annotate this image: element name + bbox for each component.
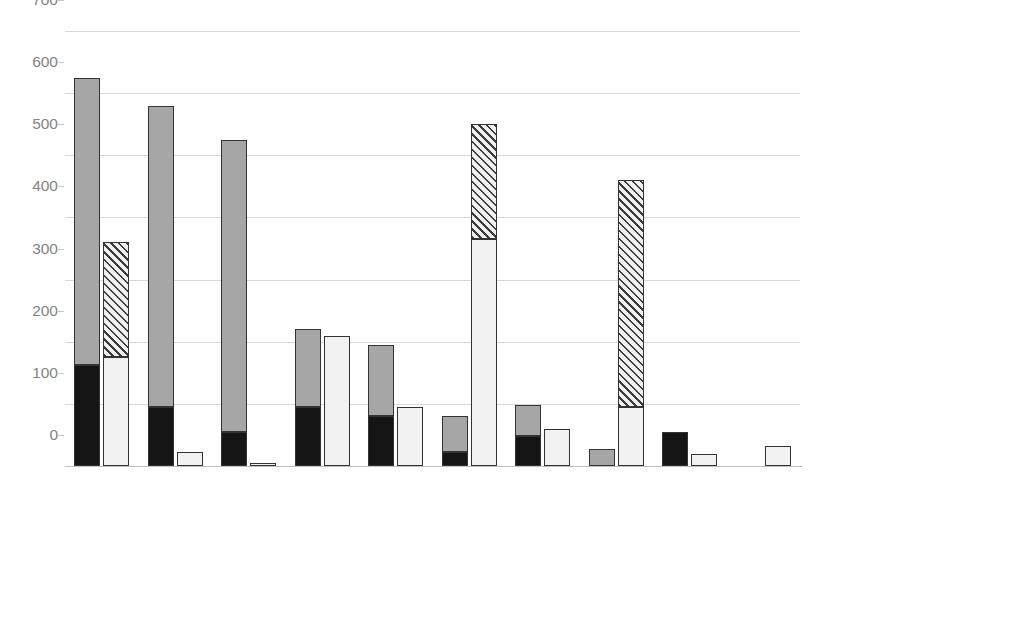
bar-segment [397, 407, 423, 466]
plot-area [65, 31, 800, 466]
y-axis-tick-label: 300 [12, 241, 58, 257]
stacked-grouped-bar-chart: 7006005004003002001000 [0, 0, 1025, 639]
bar-oppose [662, 432, 688, 466]
bar-segment [442, 416, 468, 453]
y-axis-tick-mark [58, 435, 64, 436]
y-axis-tick-label: 200 [12, 303, 58, 319]
y-axis-tick-mark [58, 62, 64, 63]
bar-group [295, 31, 369, 466]
bar-group [662, 31, 736, 466]
bar-support [691, 454, 717, 466]
bar-segment [471, 239, 497, 466]
bar-group [368, 31, 442, 466]
bar-segment [544, 429, 570, 466]
bar-segment [765, 446, 791, 467]
bar-support [177, 452, 203, 466]
bar-support [103, 242, 129, 466]
bar-segment [221, 140, 247, 432]
bar-oppose [148, 106, 174, 466]
bar-segment [618, 407, 644, 466]
bar-segment [324, 336, 350, 466]
x-axis-labels [0, 466, 1025, 639]
bar-segment [662, 432, 688, 466]
bar-support [471, 124, 497, 466]
bar-group [736, 31, 810, 466]
bar-segment [74, 78, 100, 365]
y-axis: 7006005004003002001000 [0, 0, 58, 436]
y-axis-tick-label: 500 [12, 116, 58, 132]
bar-oppose [368, 345, 394, 466]
bar-segment [368, 416, 394, 466]
bar-segment [691, 454, 717, 466]
y-axis-tick-mark [58, 186, 64, 187]
bar-segment [177, 452, 203, 466]
bar-group [221, 31, 295, 466]
bar-oppose [515, 405, 541, 466]
bar-oppose [74, 78, 100, 466]
bar-support [397, 407, 423, 466]
bar-segment [589, 449, 615, 466]
bar-group [589, 31, 663, 466]
bar-segment [295, 407, 321, 466]
y-axis-tick-mark [58, 0, 64, 1]
y-axis-tick-label: 600 [12, 54, 58, 70]
bar-segment [515, 405, 541, 435]
bar-oppose [295, 329, 321, 466]
bar-segment [442, 452, 468, 466]
bar-oppose [221, 140, 247, 466]
y-axis-tick-label: 400 [12, 178, 58, 194]
bar-oppose [442, 416, 468, 466]
bar-segment [103, 357, 129, 466]
bar-support [618, 180, 644, 466]
bar-segment [471, 124, 497, 239]
bar-support [765, 446, 791, 467]
bar-segment [295, 329, 321, 407]
bar-segment [103, 242, 129, 357]
bar-segment [148, 106, 174, 407]
bar-support [544, 429, 570, 466]
y-axis-tick-label: 0 [12, 427, 58, 443]
bar-support [324, 336, 350, 466]
bar-oppose [589, 449, 615, 466]
y-axis-tick-mark [58, 311, 64, 312]
bar-group [442, 31, 516, 466]
bar-segment [148, 407, 174, 466]
bar-group [148, 31, 222, 466]
y-axis-tick-mark [58, 249, 64, 250]
bar-segment [515, 436, 541, 466]
bar-segment [618, 180, 644, 407]
y-axis-tick-mark [58, 373, 64, 374]
bar-segment [74, 365, 100, 466]
bar-segment [221, 432, 247, 466]
y-axis-tick-mark [58, 124, 64, 125]
bar-segment [368, 345, 394, 416]
bar-group [515, 31, 589, 466]
y-axis-tick-label: 100 [12, 365, 58, 381]
bar-group [74, 31, 148, 466]
y-axis-tick-label: 700 [12, 0, 58, 8]
